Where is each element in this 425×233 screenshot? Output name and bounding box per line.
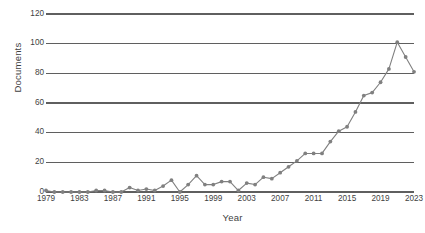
x-tick-label: 1999 bbox=[196, 195, 230, 203]
y-axis-title: Documents bbox=[12, 13, 23, 123]
data-point-marker bbox=[278, 171, 282, 175]
data-point-marker bbox=[362, 94, 366, 98]
data-point-marker bbox=[128, 186, 132, 190]
x-tick-label: 2015 bbox=[330, 195, 364, 203]
x-tick-label: 1991 bbox=[129, 195, 163, 203]
data-point-marker bbox=[287, 165, 291, 169]
data-point-marker bbox=[236, 189, 240, 193]
gridlines bbox=[46, 14, 414, 192]
data-point-marker bbox=[103, 189, 107, 193]
data-point-marker bbox=[153, 189, 157, 193]
data-series-line bbox=[46, 42, 414, 192]
data-point-marker bbox=[395, 40, 399, 44]
data-point-marker bbox=[228, 180, 232, 184]
x-axis-title: Year bbox=[45, 212, 420, 223]
x-tick-label: 2007 bbox=[263, 195, 297, 203]
data-point-marker bbox=[295, 159, 299, 163]
data-point-marker bbox=[186, 183, 190, 187]
data-point-marker bbox=[412, 70, 416, 74]
x-tick-label: 1995 bbox=[163, 195, 197, 203]
x-tick-label: 1979 bbox=[29, 195, 63, 203]
data-point-marker bbox=[354, 110, 358, 114]
data-point-marker bbox=[370, 91, 374, 95]
data-point-marker bbox=[245, 181, 249, 185]
data-point-marker bbox=[379, 80, 383, 84]
data-point-marker bbox=[94, 189, 98, 193]
x-tick-label: 1983 bbox=[62, 195, 96, 203]
data-point-marker bbox=[320, 152, 324, 156]
x-tick-label: 1987 bbox=[96, 195, 130, 203]
data-point-marker bbox=[61, 190, 65, 194]
data-point-marker bbox=[262, 175, 266, 179]
series-polyline bbox=[46, 42, 414, 192]
data-point-marker bbox=[220, 180, 224, 184]
x-tick-label: 2023 bbox=[397, 195, 425, 203]
data-point-marker bbox=[328, 140, 332, 144]
data-point-marker bbox=[345, 125, 349, 129]
data-point-marker bbox=[144, 187, 148, 191]
data-point-marker bbox=[44, 189, 48, 193]
data-point-marker bbox=[161, 184, 165, 188]
data-point-marker bbox=[203, 183, 207, 187]
data-point-marker bbox=[136, 189, 140, 193]
data-point-marker bbox=[211, 183, 215, 187]
data-point-marker bbox=[337, 129, 341, 133]
data-point-marker bbox=[253, 183, 257, 187]
x-tick-label: 2011 bbox=[297, 195, 331, 203]
data-point-marker bbox=[303, 152, 307, 156]
data-point-marker bbox=[195, 174, 199, 178]
data-series-markers bbox=[44, 40, 416, 194]
data-point-marker bbox=[312, 152, 316, 156]
documents-per-year-line-chart: 020406080100120 Documents Year 197919831… bbox=[0, 0, 425, 233]
data-point-marker bbox=[404, 55, 408, 59]
x-tick-label: 2019 bbox=[364, 195, 398, 203]
data-point-marker bbox=[170, 178, 174, 182]
data-point-marker bbox=[387, 67, 391, 71]
data-point-marker bbox=[270, 177, 274, 181]
x-tick-label: 2003 bbox=[230, 195, 264, 203]
